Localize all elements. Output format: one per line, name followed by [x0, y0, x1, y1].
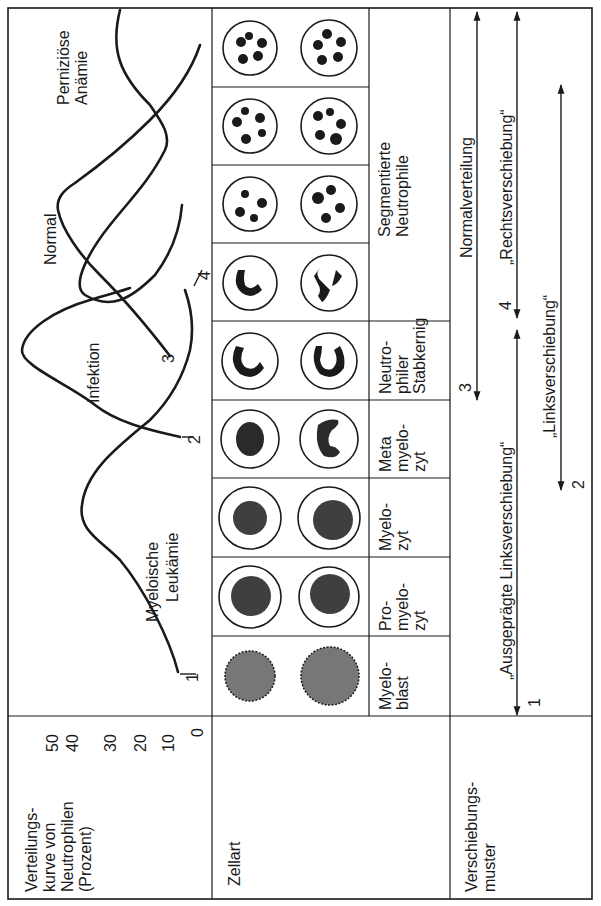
svg-text:3: 3: [457, 383, 474, 392]
svg-text:Neutro-: Neutro-: [377, 341, 394, 394]
cell-myeloblast: [225, 647, 359, 705]
svg-text:2: 2: [186, 435, 203, 444]
cell-segmented-col-1: [223, 20, 357, 76]
svg-text:Normal: Normal: [42, 213, 59, 265]
svg-text:0: 0: [189, 728, 206, 737]
curve-markers: 1 2 3 4: [160, 270, 213, 682]
cell-segmented-col-3: [223, 176, 357, 232]
svg-text:Perniziöse: Perniziöse: [55, 30, 72, 105]
svg-text:1: 1: [526, 698, 543, 707]
svg-text:muster: muster: [481, 842, 498, 892]
svg-text:Normalverteilung: Normalverteilung: [458, 137, 475, 258]
svg-text:4: 4: [196, 271, 213, 280]
neutrophil-shift-diagram: Verteilungs- kurve von Neutrophilen (Pro…: [0, 0, 601, 906]
svg-text:„Rechtsverschiebung“: „Rechtsverschiebung“: [498, 109, 515, 265]
svg-text:Leukämie: Leukämie: [164, 533, 181, 602]
svg-text:30: 30: [102, 734, 119, 752]
svg-text:(Prozent): (Prozent): [77, 826, 94, 892]
y-axis-ticks: 50 40 30 20 10 0: [44, 728, 206, 752]
row-label-curve: Verteilungs- kurve von Neutrophilen (Pro…: [23, 801, 94, 892]
svg-text:myelo-: myelo-: [394, 424, 411, 472]
svg-text:4: 4: [497, 301, 514, 310]
svg-text:zyt: zyt: [411, 610, 428, 631]
svg-text:„Ausgeprägte Linksverschiebung: „Ausgeprägte Linksverschiebung“: [498, 442, 515, 680]
svg-text:1: 1: [184, 673, 201, 682]
svg-text:myelo-: myelo-: [394, 583, 411, 631]
svg-text:Anämie: Anämie: [73, 51, 90, 105]
cell-promyelocyte: [219, 566, 359, 628]
svg-text:2: 2: [570, 480, 587, 489]
svg-text:Infektion: Infektion: [85, 343, 102, 403]
svg-text:Neutrophile: Neutrophile: [394, 155, 411, 237]
svg-text:Verschiebungs-: Verschiebungs-: [463, 782, 480, 892]
cell-band-col-2: [222, 333, 357, 389]
shift-pattern-labels: Normalverteilung „Rechtsverschiebung“ „A…: [458, 109, 558, 680]
svg-text:Segmentierte: Segmentierte: [376, 142, 393, 237]
svg-text:zyt: zyt: [411, 451, 428, 472]
curve-pernicious-anemia: [80, 10, 182, 302]
svg-text:Stabkernig: Stabkernig: [411, 318, 428, 395]
cell-pictures: [219, 20, 360, 705]
svg-text:10: 10: [160, 734, 177, 752]
svg-text:Neutrophilen: Neutrophilen: [59, 801, 76, 892]
cell-type-labels: Myelo- blast Pro- myelo- zyt Myelo- zyt …: [376, 142, 428, 710]
svg-text:kurve von: kurve von: [41, 823, 58, 892]
cell-segmented-col-2: [223, 98, 357, 154]
svg-text:50: 50: [44, 734, 61, 752]
svg-text:20: 20: [132, 734, 149, 752]
svg-text:philer: philer: [394, 354, 411, 394]
label-myeloblast-2: blast: [394, 676, 411, 710]
cell-metamyelocyte: [221, 410, 358, 468]
svg-text:3: 3: [160, 354, 177, 363]
svg-text:„Linksverschiebung“: „Linksverschiebung“: [541, 295, 558, 438]
row-label-shift-pattern: Verschiebungs- muster: [463, 782, 498, 892]
svg-text:Myeloische: Myeloische: [144, 542, 161, 622]
svg-text:Pro-: Pro-: [377, 601, 394, 631]
svg-text:40: 40: [64, 734, 81, 752]
svg-text:zyt: zyt: [394, 530, 411, 551]
row-label-cell-type: Zellart: [226, 841, 243, 886]
svg-text:Myelo-: Myelo-: [377, 503, 394, 551]
svg-text:Verteilungs-: Verteilungs-: [23, 808, 40, 893]
cell-band-col-1: [223, 255, 357, 311]
label-myeloblast-1: Myelo-: [377, 662, 394, 710]
svg-text:Meta: Meta: [377, 436, 394, 472]
cell-myelocyte: [219, 487, 360, 549]
